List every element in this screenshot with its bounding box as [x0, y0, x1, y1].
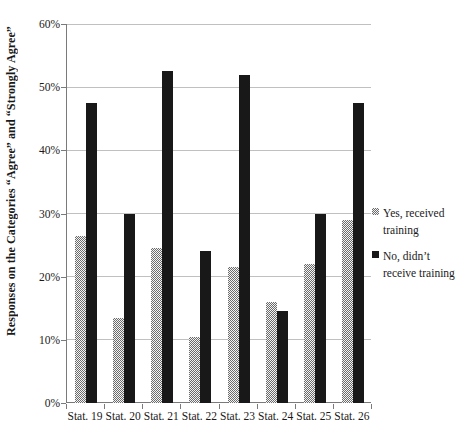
x-label-stat-26: Stat. 26 [333, 409, 371, 423]
y-tick-mark-20% [61, 277, 66, 278]
x-tick-mark-3 [180, 404, 181, 409]
x-tick-mark-8 [371, 404, 372, 409]
bar-yes-stat-23 [228, 267, 239, 403]
y-tick-label-10%: 10% [18, 333, 60, 347]
gridline-50% [67, 87, 371, 88]
bar-chart-figure: Responses on the Categories “Agree” and … [0, 0, 470, 443]
bar-no-stat-26 [353, 103, 364, 403]
y-tick-label-30%: 30% [18, 207, 60, 221]
bar-yes-stat-20 [113, 318, 124, 403]
x-tick-mark-1 [104, 404, 105, 409]
legend-item-yes: Yes, received training [372, 205, 466, 238]
gridline-40% [67, 150, 371, 151]
y-tick-label-40%: 40% [18, 143, 60, 157]
x-tick-mark-7 [333, 404, 334, 409]
y-tick-mark-40% [61, 150, 66, 151]
x-label-stat-23: Stat. 23 [219, 409, 257, 423]
bar-no-stat-19 [86, 103, 97, 403]
y-tick-mark-50% [61, 87, 66, 88]
bar-no-stat-21 [162, 71, 173, 403]
y-tick-label-20%: 20% [18, 270, 60, 284]
y-tick-label-50%: 50% [18, 80, 60, 94]
legend-item-no: No, didn’t receive training [372, 248, 466, 281]
gridline-60% [67, 24, 371, 25]
bar-no-stat-25 [315, 214, 326, 404]
x-label-stat-22: Stat. 22 [180, 409, 218, 423]
x-tick-mark-4 [219, 404, 220, 409]
x-label-stat-21: Stat. 21 [142, 409, 180, 423]
y-tick-label-0%: 0% [18, 396, 60, 410]
legend-swatch-dotted-icon [372, 208, 379, 215]
x-tick-mark-2 [142, 404, 143, 409]
x-tick-mark-6 [295, 404, 296, 409]
bar-no-stat-24 [277, 311, 288, 403]
y-tick-mark-60% [61, 24, 66, 25]
bar-no-stat-22 [200, 251, 211, 403]
bar-no-stat-23 [239, 75, 250, 403]
x-label-stat-24: Stat. 24 [257, 409, 295, 423]
x-label-stat-25: Stat. 25 [295, 409, 333, 423]
bar-yes-stat-21 [151, 248, 162, 403]
bar-yes-stat-22 [189, 337, 200, 403]
bar-yes-stat-19 [75, 236, 86, 403]
legend: Yes, received training No, didn’t receiv… [372, 205, 466, 282]
x-label-stat-19: Stat. 19 [66, 409, 104, 423]
legend-label-no: No, didn’t receive training [383, 248, 463, 281]
legend-swatch-black-icon [372, 251, 379, 258]
y-tick-mark-10% [61, 340, 66, 341]
x-label-stat-20: Stat. 20 [104, 409, 142, 423]
x-tick-mark-0 [66, 404, 67, 409]
y-axis-title: Responses on the Categories “Agree” and … [4, 28, 20, 336]
legend-label-yes: Yes, received training [383, 205, 463, 238]
plot-area [66, 24, 371, 403]
bar-yes-stat-24 [266, 302, 277, 403]
y-tick-label-60%: 60% [18, 17, 60, 31]
x-tick-mark-5 [257, 404, 258, 409]
bar-yes-stat-25 [304, 264, 315, 403]
bar-yes-stat-26 [342, 220, 353, 403]
bar-no-stat-20 [124, 214, 135, 404]
y-tick-mark-30% [61, 214, 66, 215]
